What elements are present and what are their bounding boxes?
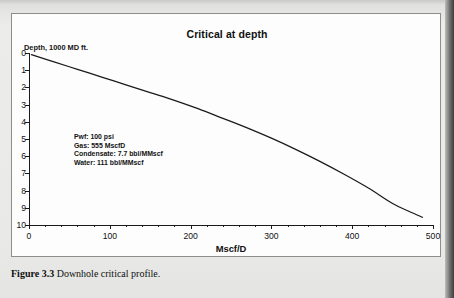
figure-caption-text: Downhole critical profile. bbox=[57, 268, 161, 279]
scan-edge-top bbox=[0, 0, 454, 5]
x-tick-label: 200 bbox=[183, 231, 197, 241]
annotation-line: Pwf: 100 psi bbox=[74, 133, 163, 142]
scan-edge-right bbox=[445, 0, 454, 298]
figure-caption: Figure 3.3 Downhole critical profile. bbox=[11, 268, 160, 279]
y-tick-label: 4 bbox=[21, 117, 26, 127]
x-axis-label: Mscf/D bbox=[29, 243, 433, 254]
x-tick-label: 400 bbox=[345, 231, 359, 241]
plot-area: 012345678910 0100200300400500 Pwf: 100 p… bbox=[29, 53, 433, 225]
annotation-line: Water: 111 bbl/MMscf bbox=[74, 159, 163, 168]
chart-title: Critical at depth bbox=[12, 28, 442, 40]
x-tick-label: 300 bbox=[264, 231, 278, 241]
y-tick-label: 5 bbox=[21, 134, 26, 144]
y-tick-label: 3 bbox=[21, 100, 26, 110]
annotation-line: Condensate: 7.7 bbl/MMscf bbox=[74, 150, 163, 159]
scanned-page: Critical at depth Depth, 1000 MD ft. 012… bbox=[0, 0, 454, 298]
y-tick-label: 6 bbox=[21, 151, 26, 161]
y-tick-label: 1 bbox=[21, 65, 26, 75]
y-axis-label: Depth, 1000 MD ft. bbox=[24, 43, 88, 52]
x-tick-label: 0 bbox=[27, 231, 32, 241]
y-tick-label: 8 bbox=[21, 186, 26, 196]
x-tick-major-500 bbox=[433, 225, 434, 229]
figure-panel: Critical at depth Depth, 1000 MD ft. 012… bbox=[11, 13, 441, 257]
y-tick-label: 9 bbox=[21, 203, 26, 213]
y-tick-label: 7 bbox=[21, 168, 26, 178]
y-tick-label: 2 bbox=[21, 82, 26, 92]
x-tick-label: 100 bbox=[103, 231, 117, 241]
figure-caption-label: Figure 3.3 bbox=[11, 268, 54, 279]
y-tick-label: 0 bbox=[21, 48, 26, 58]
chart-annotation-block: Pwf: 100 psiGas: 555 MscfDCondensate: 7.… bbox=[74, 133, 163, 167]
x-tick-label: 500 bbox=[426, 231, 440, 241]
y-tick-label: 10 bbox=[16, 220, 26, 230]
annotation-line: Gas: 555 MscfD bbox=[74, 142, 163, 151]
